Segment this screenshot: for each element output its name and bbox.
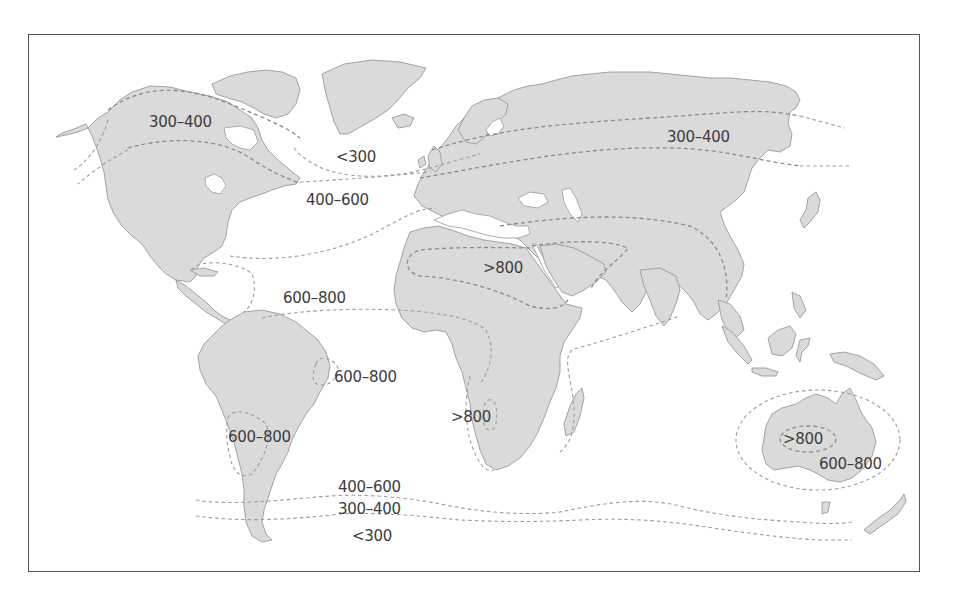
zone-label-sahara: >800 — [483, 261, 523, 276]
sulawesi — [796, 338, 810, 362]
south-america — [198, 310, 330, 542]
madagascar — [564, 388, 584, 436]
isoline-n-atlantic-2 — [300, 172, 430, 182]
alaska-peninsula — [56, 124, 88, 137]
isoline-eurasia-north-ext — [800, 116, 845, 128]
india — [640, 268, 680, 326]
isoline-indian-ocean — [560, 316, 680, 452]
world-map — [0, 0, 963, 596]
japan — [800, 192, 820, 228]
zone-label-tropical-atlantic: 600–800 — [283, 291, 346, 306]
isoline-southern-1 — [196, 495, 852, 523]
tasmania — [822, 502, 830, 514]
zone-label-ne-brazil: 600–800 — [334, 370, 397, 385]
zone-label-southern-ocean-3: <300 — [352, 529, 392, 544]
zone-label-australia-outer: 600–800 — [819, 457, 882, 472]
zone-label-n-atlantic-low: <300 — [336, 150, 376, 165]
iceland — [392, 114, 414, 128]
zone-label-na-north: 300–400 — [149, 115, 212, 130]
land-masses — [56, 60, 906, 542]
central-america — [176, 280, 230, 324]
new-zealand — [864, 494, 906, 534]
zone-label-central-australia: >800 — [783, 432, 823, 447]
zone-label-kalahari: >800 — [451, 410, 491, 425]
zone-label-eurasia-north: 300–400 — [667, 130, 730, 145]
zone-label-southern-ocean-2: 300–400 — [338, 502, 401, 517]
java — [752, 368, 778, 376]
zone-label-n-atlantic-mid: 400–600 — [306, 193, 369, 208]
ireland — [418, 156, 426, 168]
new-guinea — [830, 352, 884, 380]
zone-label-chaco: 600–800 — [228, 430, 291, 445]
isoline-southern-2 — [196, 513, 852, 540]
zone-label-southern-ocean-1: 400–600 — [338, 480, 401, 495]
philippines — [792, 292, 806, 318]
borneo — [768, 326, 796, 356]
